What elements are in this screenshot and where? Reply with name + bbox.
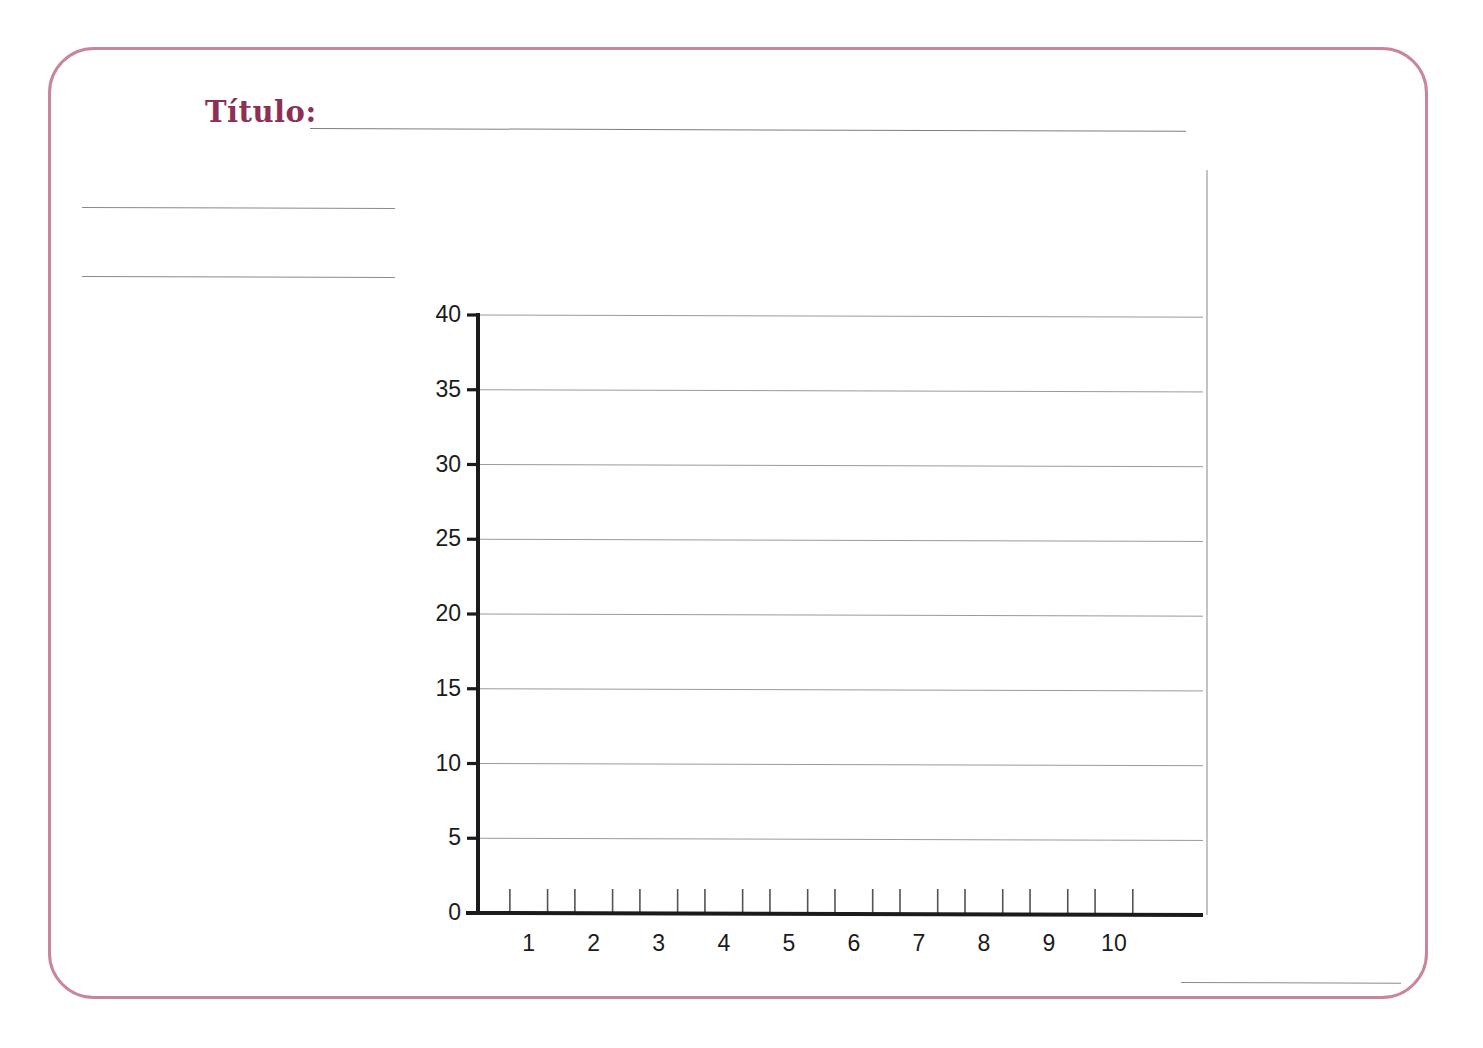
- x-axis-tick-label: 5: [763, 932, 815, 955]
- y-axis-tick-label: 0: [415, 901, 461, 924]
- x-axis-tick-label: 6: [828, 932, 880, 955]
- y-axis-tick-label: 25: [415, 527, 461, 550]
- worksheet-frame: [48, 47, 1428, 999]
- x-axis-tick-label: 9: [1023, 932, 1075, 955]
- title-row: Título:: [205, 95, 317, 135]
- y-axis-tick-label: 5: [415, 826, 461, 849]
- y-axis-tick-label: 20: [415, 602, 461, 625]
- y-axis-tick-label: 40: [415, 303, 461, 326]
- y-axis-tick-label: 15: [415, 677, 461, 700]
- worksheet-page: Título: 0510152025303540 12345678910: [0, 0, 1483, 1048]
- x-axis-tick-label: 10: [1088, 932, 1140, 955]
- x-axis-tick-label: 8: [958, 932, 1010, 955]
- x-axis-tick-label: 3: [633, 932, 685, 955]
- x-axis-tick-label: 2: [568, 932, 620, 955]
- page-title: Título:: [205, 95, 317, 129]
- x-axis-tick-label: 4: [698, 932, 750, 955]
- x-axis-tick-label: 1: [503, 932, 555, 955]
- y-axis-tick-label: 35: [415, 378, 461, 401]
- x-axis-tick-label: 7: [893, 932, 945, 955]
- y-axis-tick-label: 10: [415, 752, 461, 775]
- y-axis-tick-label: 30: [415, 453, 461, 476]
